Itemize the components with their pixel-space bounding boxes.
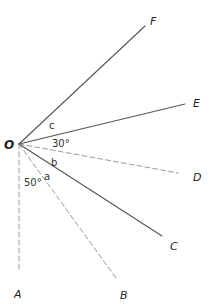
rays-group: [19, 26, 185, 278]
ray-ob: [19, 144, 116, 278]
point-label-e: E: [193, 97, 200, 110]
point-label-c: C: [170, 240, 178, 253]
ray-of: [19, 26, 145, 144]
angle-label-a: a: [44, 171, 50, 182]
ray-od: [19, 144, 178, 173]
vertex-label-o: O: [4, 138, 14, 152]
point-label-a: A: [13, 288, 22, 301]
point-label-d: D: [193, 171, 201, 184]
ray-oe: [19, 104, 185, 144]
angle-label-30deg: 30°: [52, 138, 70, 149]
angle-labels-group: c30°ba50°: [24, 120, 70, 188]
angle-label-50deg: 50°: [24, 177, 42, 188]
diagram-svg: ABCDEF c30°ba50° O: [0, 0, 213, 304]
ray-oc: [19, 144, 162, 236]
angle-diagram: ABCDEF c30°ba50° O: [0, 0, 213, 304]
angle-label-b: b: [51, 157, 57, 168]
angle-label-c: c: [49, 120, 55, 131]
point-label-f: F: [150, 15, 157, 28]
point-label-b: B: [120, 289, 128, 302]
